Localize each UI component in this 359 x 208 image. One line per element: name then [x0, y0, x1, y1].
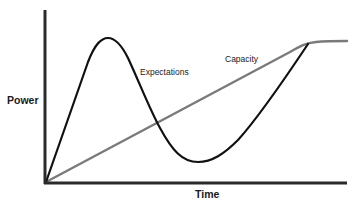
capacity-curve: [46, 41, 347, 182]
expectations-label: Expectations: [140, 68, 189, 77]
y-axis-label: Power: [7, 95, 39, 106]
x-axis-label: Time: [195, 189, 219, 200]
expectations-vs-capacity-chart: Power Time Expectations Capacity: [0, 0, 359, 208]
capacity-label: Capacity: [225, 55, 258, 64]
chart-canvas: [0, 0, 359, 208]
